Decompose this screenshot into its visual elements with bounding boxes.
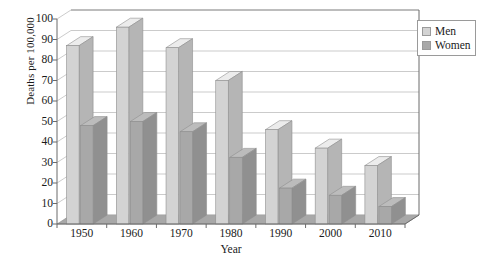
legend-item-women[interactable]: Women bbox=[422, 38, 470, 52]
bar-front-face bbox=[265, 130, 278, 224]
bar-front-face bbox=[329, 195, 342, 224]
legend-swatch-icon bbox=[422, 41, 431, 50]
bar-front-face bbox=[279, 188, 292, 224]
bar-front-face bbox=[116, 27, 129, 224]
bar-side-face bbox=[193, 123, 207, 224]
legend-swatch-icon bbox=[422, 27, 431, 36]
x-tick-label-2010: 2010 bbox=[350, 227, 410, 239]
bar-1970-women bbox=[180, 123, 207, 224]
bar-front-face bbox=[130, 122, 143, 225]
bar-front-face bbox=[180, 132, 193, 224]
bar-front-face bbox=[216, 81, 229, 225]
bar-1990-women bbox=[279, 179, 306, 224]
plot-area bbox=[0, 0, 481, 265]
bar-1960-women bbox=[130, 113, 157, 225]
bar-front-face bbox=[81, 126, 94, 224]
bar-front-face bbox=[230, 157, 243, 224]
gridline-depth-90 bbox=[57, 31, 71, 40]
bar-front-face bbox=[67, 46, 80, 224]
bar-front-face bbox=[166, 48, 179, 224]
bar-1950-women bbox=[81, 117, 108, 224]
bar-side-face bbox=[242, 148, 256, 224]
bar-front-face bbox=[379, 207, 392, 224]
bar-side-face bbox=[93, 117, 107, 224]
bar-front-face bbox=[315, 148, 328, 224]
legend: MenWomen bbox=[417, 20, 476, 56]
bar-front-face bbox=[365, 166, 378, 224]
x-axis-title: Year bbox=[57, 243, 405, 255]
gridline-depth-100 bbox=[57, 10, 71, 19]
bar-chart: Deaths per 100,000 010203040506070809010… bbox=[0, 0, 481, 265]
bar-1980-women bbox=[230, 148, 257, 224]
bar-side-face bbox=[143, 113, 157, 225]
legend-label: Men bbox=[435, 25, 456, 37]
legend-item-men[interactable]: Men bbox=[422, 24, 470, 38]
legend-label: Women bbox=[435, 39, 470, 51]
